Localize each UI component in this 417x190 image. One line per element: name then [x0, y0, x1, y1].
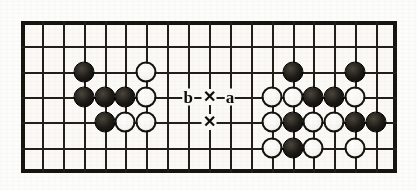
white-stone[interactable]	[345, 87, 366, 108]
white-stone[interactable]	[136, 87, 157, 108]
go-board[interactable]: b✕a✕	[21, 21, 397, 173]
grid-line-horizontal	[21, 46, 397, 48]
white-stone[interactable]	[303, 112, 324, 133]
black-stone[interactable]	[282, 61, 303, 82]
white-stone[interactable]	[136, 112, 157, 133]
black-stone[interactable]	[324, 87, 345, 108]
white-stone[interactable]	[261, 137, 282, 158]
grid-line-horizontal	[21, 148, 397, 150]
white-stone[interactable]	[136, 61, 157, 82]
white-stone[interactable]	[261, 87, 282, 108]
black-stone[interactable]	[73, 87, 94, 108]
cross-lower[interactable]: ✕	[202, 114, 217, 130]
white-stone[interactable]	[115, 112, 136, 133]
label-a[interactable]: a	[225, 89, 236, 106]
white-stone[interactable]	[345, 137, 366, 158]
black-stone[interactable]	[282, 112, 303, 133]
black-stone[interactable]	[303, 87, 324, 108]
cross-upper[interactable]: ✕	[202, 89, 217, 105]
white-stone[interactable]	[324, 112, 345, 133]
black-stone[interactable]	[94, 112, 115, 133]
black-stone[interactable]	[73, 61, 94, 82]
black-stone[interactable]	[345, 112, 366, 133]
black-stone[interactable]	[282, 137, 303, 158]
black-stone[interactable]	[94, 87, 115, 108]
label-b[interactable]: b	[182, 89, 193, 106]
black-stone[interactable]	[115, 87, 136, 108]
white-stone[interactable]	[261, 112, 282, 133]
white-stone[interactable]	[303, 137, 324, 158]
black-stone[interactable]	[345, 61, 366, 82]
black-stone[interactable]	[366, 112, 387, 133]
go-diagram-screenshot: b✕a✕	[0, 0, 417, 190]
white-stone[interactable]	[282, 87, 303, 108]
